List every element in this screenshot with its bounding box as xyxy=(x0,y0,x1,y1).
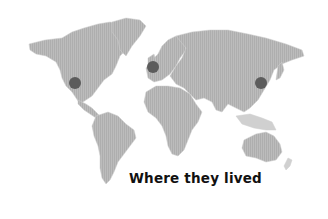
marker-united-kingdom xyxy=(147,61,159,73)
australia xyxy=(242,132,282,162)
map-caption: Where they lived xyxy=(129,170,279,186)
southeast-asia-islands xyxy=(236,114,276,130)
central-america xyxy=(78,100,100,118)
new-zealand xyxy=(284,158,292,170)
marker-western-united-states xyxy=(69,77,81,89)
landmasses xyxy=(29,18,304,184)
marker-eastern-china xyxy=(255,77,267,89)
world-map xyxy=(0,0,328,219)
